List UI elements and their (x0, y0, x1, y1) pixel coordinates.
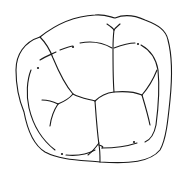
top-y-fissure-right (114, 24, 120, 30)
tooth-outline-drawing (0, 0, 184, 182)
top-mid-ridge (80, 42, 112, 48)
lingual-branch-left (88, 143, 99, 155)
pit-dot-bottom-left (61, 153, 63, 155)
tooth-diagram (0, 0, 184, 182)
top-right-ridge (114, 43, 135, 48)
mesial-groove (40, 37, 95, 101)
pit-dot-top-right (137, 43, 139, 45)
pit-dot-left (37, 67, 39, 69)
pit-dot-top-left (72, 46, 74, 48)
left-fissure-top (42, 100, 58, 104)
left-fissure-down (50, 104, 58, 126)
lingual-groove (95, 101, 100, 162)
top-y-fissure-left (107, 24, 114, 30)
distal-lingual-groove (142, 95, 150, 125)
central-vertical-groove (113, 30, 114, 92)
top-center-ridge (60, 46, 73, 50)
distobuccal-groove (142, 70, 157, 95)
pit-dot-bottom-right (133, 141, 135, 143)
left-fissure-right (58, 94, 73, 104)
bottom-right-ridge (102, 143, 137, 148)
central-horizontal-groove (95, 92, 142, 101)
left-marginal-ridge (27, 70, 55, 150)
